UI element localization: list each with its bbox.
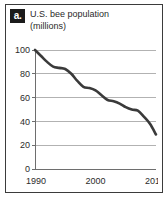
y-axis-label: 20 (20, 140, 30, 150)
chart-title-line-1: U.S. bee population (30, 9, 158, 21)
chart-header: a. U.S. bee population (millions) (10, 9, 158, 43)
chart-title-line-2: (millions) (30, 21, 158, 33)
y-axis-label: 60 (20, 93, 30, 103)
x-axis-label: 1990 (26, 176, 46, 186)
x-axis-label: 2000 (85, 176, 105, 186)
y-axis-label: 100 (15, 45, 30, 55)
y-axis-label: 0 (25, 164, 30, 174)
y-axis-label: 80 (20, 69, 30, 79)
chart-title: U.S. bee population (millions) (30, 9, 158, 32)
plot-area: 100806040200 199020002010 (10, 44, 158, 190)
gridlines-group (35, 50, 156, 145)
figure-panel: a. U.S. bee population (millions) 100806… (0, 0, 168, 197)
x-axis-label: 2010 (145, 176, 158, 186)
panel-label-badge: a. (10, 9, 25, 23)
x-axis-labels-group: 199020002010 (26, 176, 158, 186)
line-chart-svg: 100806040200 199020002010 (10, 44, 158, 190)
y-axis-labels-group: 100806040200 (15, 45, 30, 174)
y-axis-label: 40 (20, 117, 30, 127)
